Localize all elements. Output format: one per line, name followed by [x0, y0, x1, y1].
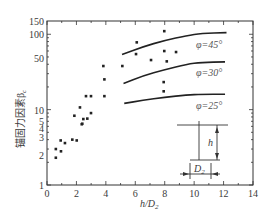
data-points: [55, 30, 178, 159]
data-point: [55, 156, 58, 159]
x-tick-label: 14: [248, 188, 258, 199]
y-tick-label: 2: [39, 150, 44, 161]
data-point: [121, 65, 124, 68]
data-point: [165, 60, 168, 63]
data-point: [103, 78, 106, 81]
data-point: [103, 95, 106, 98]
data-point: [102, 65, 105, 68]
y-tick-label: 100: [29, 29, 44, 40]
x-tick-label: 10: [189, 188, 199, 199]
inset-diameter-sub: 2: [201, 168, 205, 176]
data-point: [135, 41, 138, 44]
curve-label-phi-30: φ=30°: [196, 67, 222, 78]
curve-label-phi-25: φ=25°: [196, 100, 222, 111]
y-axis-title: 锚固力因素βc: [14, 89, 28, 148]
arrow-up-icon: [215, 127, 219, 133]
arrow-down-icon: [215, 153, 219, 159]
data-point: [175, 51, 178, 54]
data-point: [163, 50, 166, 53]
y-tick-label: 1: [39, 180, 44, 191]
y-axis-tick-labels: 150100501054321: [29, 16, 44, 191]
x-tick-label: 8: [162, 188, 167, 199]
data-point: [81, 122, 84, 125]
data-point: [162, 90, 165, 93]
y-axis-title-sub: c: [20, 89, 28, 93]
data-point: [135, 53, 138, 56]
data-point: [79, 106, 82, 109]
y-tick-label: 10: [34, 105, 44, 116]
y-axis-title-main: 锚固力因素β: [14, 93, 26, 148]
data-point: [150, 59, 153, 62]
y-tick-label: 150: [29, 16, 44, 27]
data-point: [162, 81, 165, 84]
x-tick-label: 0: [45, 188, 50, 199]
x-tick-label: 4: [103, 188, 108, 199]
inset-height-label: h: [208, 137, 213, 148]
data-point: [75, 139, 78, 142]
x-tick-label: 2: [74, 188, 79, 199]
data-point: [73, 114, 76, 117]
data-point: [64, 142, 67, 145]
data-point: [163, 30, 166, 33]
chart: 02468101214 150100501054321 φ=45° φ=30° …: [0, 0, 272, 221]
data-point: [82, 118, 85, 121]
curve-label-phi-45: φ=45°: [196, 39, 222, 50]
x-axis-title: h/D2: [140, 198, 159, 211]
data-point: [60, 150, 63, 153]
data-point: [55, 148, 58, 151]
data-point: [86, 117, 89, 120]
arrow-left-icon: [212, 172, 218, 176]
y-tick-label: 3: [39, 132, 44, 143]
x-tick-label: 6: [133, 188, 138, 199]
data-point: [71, 138, 74, 141]
arrow-right-icon: [183, 172, 189, 176]
x-axis-title-sub: 2: [155, 203, 159, 211]
x-tick-label: 12: [219, 188, 229, 199]
data-point: [85, 95, 88, 98]
data-point: [90, 95, 93, 98]
x-axis-title-main: h/D: [140, 198, 156, 209]
data-point: [90, 112, 93, 115]
data-point: [59, 139, 62, 142]
y-tick-label: 50: [34, 53, 44, 64]
